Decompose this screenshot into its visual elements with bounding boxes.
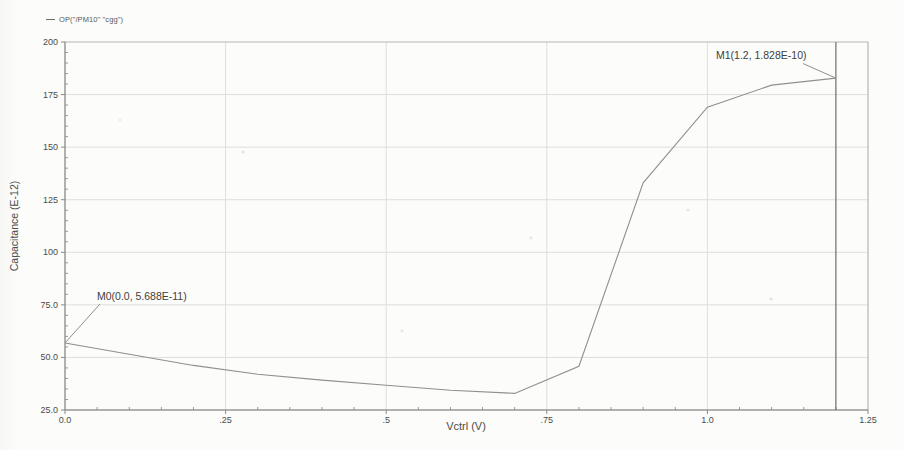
- plot-border: [65, 42, 868, 410]
- series-curve: [65, 78, 836, 393]
- x-axis-label: Vctrl (V): [446, 420, 486, 432]
- marker-m1-label: M1(1.2, 1.828E-10): [716, 49, 806, 61]
- svg-text:.75: .75: [541, 415, 554, 425]
- axis-lines: [65, 42, 868, 410]
- svg-text:125: 125: [43, 195, 58, 205]
- svg-text:1.25: 1.25: [859, 415, 877, 425]
- legend-line-swatch: [46, 19, 55, 20]
- svg-text:150: 150: [43, 142, 58, 152]
- legend: OP("/PM10" "cgg"): [46, 15, 123, 24]
- svg-text:200: 200: [43, 37, 58, 47]
- svg-text:0.0: 0.0: [59, 415, 72, 425]
- gridlines: [65, 42, 868, 410]
- svg-text:100: 100: [43, 247, 58, 257]
- waveform-plot-window: 0.0.25.5.751.01.2520017515012510075.050.…: [0, 0, 904, 450]
- y-tick-labels: 20017515012510075.050.025.0: [40, 37, 58, 415]
- axis-ticks: [61, 42, 868, 414]
- svg-text:1.0: 1.0: [701, 415, 714, 425]
- svg-text:75.0: 75.0: [40, 300, 58, 310]
- svg-text:.25: .25: [219, 415, 232, 425]
- y-axis-label: Capacitance (E-12): [8, 181, 20, 271]
- svg-text:175: 175: [43, 90, 58, 100]
- svg-text:25.0: 25.0: [40, 405, 58, 415]
- marker-m0-label: M0(0.0, 5.688E-11): [97, 290, 187, 302]
- legend-label: OP("/PM10" "cgg"): [59, 15, 123, 24]
- svg-text:50.0: 50.0: [40, 352, 58, 362]
- svg-text:.5: .5: [382, 415, 390, 425]
- capacitance-vs-vctrl-chart: 0.0.25.5.751.01.2520017515012510075.050.…: [0, 0, 904, 450]
